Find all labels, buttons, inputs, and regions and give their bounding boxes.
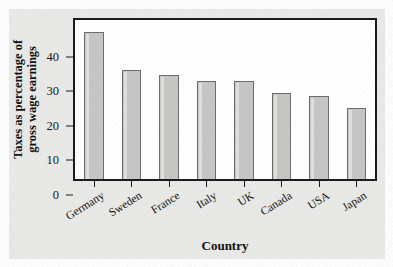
x-tick-mark	[356, 181, 357, 187]
figure-margin-bottom	[0, 259, 393, 267]
bar-germany	[84, 32, 104, 179]
y-tick-label: 30	[47, 84, 60, 99]
figure-margin-right	[385, 0, 393, 267]
x-tick-label-uk: UK	[235, 189, 255, 208]
y-tick-label: 20	[47, 118, 60, 133]
bar-canada	[272, 93, 292, 179]
figure-margin-left	[0, 0, 9, 267]
plot-area	[75, 20, 375, 179]
bar-uk	[234, 81, 254, 180]
figure: Taxes as percentage of gross wage earnin…	[0, 0, 393, 267]
bar-sweden	[122, 70, 142, 179]
figure-margin-top	[0, 0, 393, 9]
y-tick-label: 40	[47, 49, 60, 64]
bar-usa	[309, 96, 329, 179]
y-tick-mark	[66, 195, 73, 196]
y-axis: 010203040	[0, 18, 73, 183]
x-tick-mark	[169, 181, 170, 187]
x-tick-mark	[206, 181, 207, 187]
x-tick-mark	[319, 181, 320, 187]
y-tick-mark	[66, 56, 73, 57]
x-tick-label-canada: Canada	[258, 189, 294, 217]
x-tick-label-italy: Italy	[194, 189, 218, 210]
x-axis: GermanySwedenFranceItalyUKCanadaUSAJapan	[73, 181, 377, 241]
y-tick-mark	[66, 91, 73, 92]
y-tick-label: 0	[53, 188, 59, 203]
y-tick-mark	[66, 125, 73, 126]
bar-italy	[197, 81, 217, 180]
bar-japan	[347, 108, 367, 179]
x-tick-mark	[244, 181, 245, 187]
x-tick-mark	[131, 181, 132, 187]
bar-france	[159, 75, 179, 179]
x-tick-label-sweden: Sweden	[107, 189, 144, 218]
x-tick-mark	[94, 181, 95, 187]
y-tick-mark	[66, 160, 73, 161]
x-tick-label-usa: USA	[305, 189, 331, 211]
x-axis-title: Country	[73, 238, 377, 254]
plot-frame	[73, 18, 377, 181]
x-tick-label-japan: Japan	[340, 189, 369, 213]
y-tick-label: 10	[47, 153, 60, 168]
x-tick-mark	[281, 181, 282, 187]
x-tick-label-france: France	[149, 189, 182, 216]
